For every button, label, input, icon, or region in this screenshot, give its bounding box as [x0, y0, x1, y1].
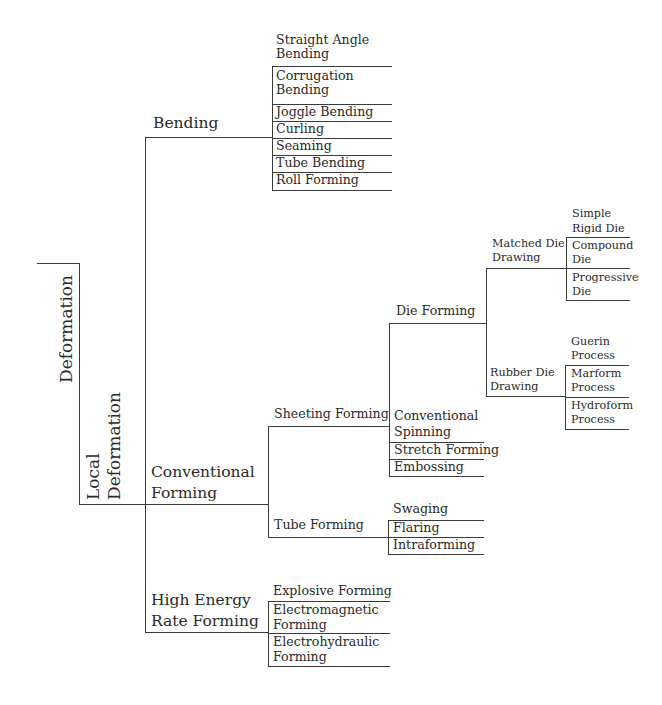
divider	[388, 554, 484, 555]
die-forming-branch-line	[389, 323, 487, 324]
leaf-straight-angle-bending: Straight Angle Bending	[276, 33, 369, 61]
leaf-simple-rigid-die: Simple Rigid Die	[572, 206, 625, 236]
divider	[389, 476, 484, 477]
node-matched-die-drawing: Matched Die Drawing	[492, 237, 565, 265]
leaf-curling: Curling	[276, 122, 324, 136]
leaf-stretch-forming: Stretch Forming	[394, 443, 499, 457]
node-tube-forming: Tube Forming	[274, 518, 364, 532]
matched-die-branch-line	[486, 268, 566, 269]
node-bending: Bending	[153, 115, 218, 132]
bending-branch-line	[145, 137, 273, 138]
tube-forming-branch-line	[268, 537, 388, 538]
node-die-forming: Die Forming	[396, 304, 475, 318]
sheeting-children-spine	[389, 323, 390, 476]
node-label: Deformation	[56, 275, 76, 383]
leaf-swaging: Swaging	[393, 502, 448, 516]
leaf-roll-forming: Roll Forming	[276, 173, 359, 187]
root-bracket-top	[37, 263, 80, 264]
leaf-seaming: Seaming	[276, 139, 332, 153]
node-label-line2: Deformation	[104, 392, 125, 500]
leaf-joggle-bending: Joggle Bending	[276, 105, 373, 119]
high-energy-branch-line	[145, 632, 269, 633]
main-spine	[145, 137, 146, 633]
leaf-tube-bending: Tube Bending	[276, 156, 365, 170]
sheeting-branch-line	[268, 426, 390, 427]
node-high-energy-rate-forming: High Energy Rate Forming	[151, 590, 259, 632]
leaf-corrugation-bending: Corrugation Bending	[276, 69, 354, 97]
divider	[565, 365, 629, 366]
conventional-children-spine	[268, 426, 269, 537]
leaf-explosive-forming: Explosive Forming	[273, 584, 392, 598]
root-bracket-vertical	[79, 263, 80, 504]
leaf-guerin-process: Guerin Process	[571, 335, 615, 363]
node-conventional-forming: Conventional Forming	[151, 462, 255, 504]
divider	[566, 268, 630, 269]
rubber-die-branch-line	[486, 396, 566, 397]
node-rubber-die-drawing: Rubber Die Drawing	[490, 366, 555, 394]
node-deformation: Deformation	[56, 275, 76, 383]
divider	[268, 666, 390, 667]
leaf-conventional-spinning: Conventional Spinning	[394, 408, 478, 440]
leaf-electrohydraulic-forming: Electrohydraulic Forming	[273, 634, 379, 664]
leaf-hydroform-process: Hydroform Process	[571, 399, 633, 427]
divider	[566, 237, 630, 238]
level1-bottom-line	[79, 504, 269, 505]
leaf-compound-die: Compound Die	[572, 239, 633, 267]
divider	[272, 190, 392, 191]
leaf-embossing: Embossing	[394, 460, 464, 474]
divider	[565, 429, 629, 430]
divider	[566, 300, 630, 301]
divider	[565, 397, 629, 398]
leaf-progressive-die: Progressive Die	[572, 271, 639, 299]
die-forming-children-spine	[486, 268, 487, 397]
leaf-marform-process: Marform Process	[571, 367, 621, 395]
node-local-deformation: Local Deformation	[83, 392, 125, 500]
leaf-flaring: Flaring	[393, 521, 440, 535]
node-sheeting-forming: Sheeting Forming	[274, 407, 389, 421]
node-label-line1: Local	[83, 392, 104, 500]
divider	[272, 66, 392, 67]
leaf-intraforming: Intraforming	[393, 538, 475, 552]
leaf-electromagnetic-forming: Electromagnetic Forming	[273, 602, 379, 632]
